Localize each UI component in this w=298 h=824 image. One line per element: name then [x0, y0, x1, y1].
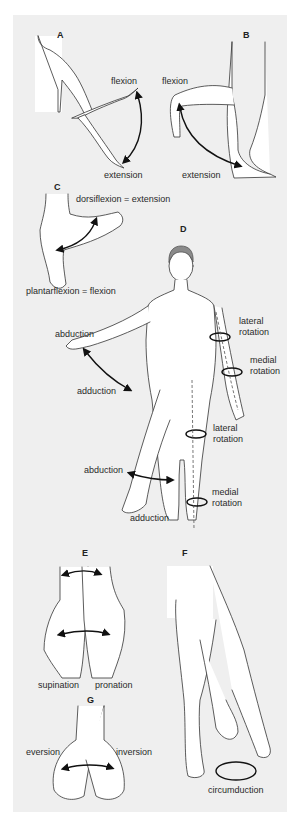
anatomical-illustration: [0, 0, 298, 824]
panel-letter-g: G: [87, 695, 94, 705]
label-g-inversion: inversion: [116, 747, 152, 757]
panel-c-foot: [40, 194, 123, 288]
label-d-leg-medial: medial: [212, 487, 239, 497]
label-a-extension: extension: [104, 170, 143, 180]
label-a-flexion: flexion: [111, 76, 137, 86]
label-b-extension: extension: [182, 170, 221, 180]
label-d-arm-lateral: lateral: [239, 316, 264, 326]
label-e-pronation: pronation: [95, 680, 133, 690]
label-d-arm-lateral-rotation: rotation: [239, 327, 269, 337]
panel-e-hands: [44, 567, 125, 678]
panel-f-legs: [167, 566, 270, 778]
panel-letter-a: A: [57, 30, 64, 40]
panel-g-feet: [53, 706, 124, 799]
label-d-leg-lateral: lateral: [213, 423, 238, 433]
label-d-arm-abduction: abduction: [55, 329, 94, 339]
panel-letter-e: E: [82, 548, 88, 558]
label-d-leg-medial-rotation: rotation: [212, 498, 242, 508]
label-f-circumduction: circumduction: [208, 785, 264, 795]
panel-letter-b: B: [243, 30, 250, 40]
panel-letter-f: F: [182, 548, 188, 558]
label-d-leg-adduction: adduction: [130, 513, 169, 523]
label-c-dorsiflexion: dorsiflexion = extension: [76, 194, 170, 204]
label-d-arm-adduction: adduction: [77, 386, 116, 396]
label-d-leg-lateral-rotation: rotation: [213, 434, 243, 444]
panel-a-arm: [35, 36, 138, 168]
label-b-flexion: flexion: [162, 76, 188, 86]
label-d-arm-medial: medial: [250, 355, 277, 365]
panel-letter-c: C: [54, 182, 61, 192]
label-d-leg-abduction: abduction: [84, 465, 123, 475]
label-c-plantarflexion: plantarflexion = flexion: [26, 286, 116, 296]
label-g-eversion: eversion: [26, 747, 60, 757]
label-d-arm-medial-rotation: rotation: [250, 366, 280, 376]
label-e-supination: supination: [38, 680, 79, 690]
panel-letter-d: D: [180, 224, 187, 234]
panel-b-leg: [170, 42, 276, 178]
